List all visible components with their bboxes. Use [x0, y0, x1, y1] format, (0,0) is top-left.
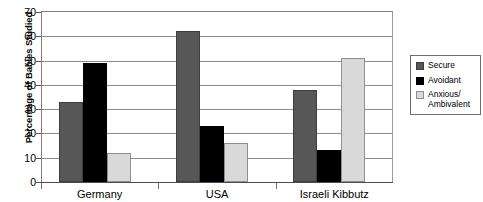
bar-israeli-kibbutz-anxious-ambivalent — [341, 58, 365, 182]
bar-usa-anxious-ambivalent — [224, 143, 248, 182]
bar-germany-avoidant — [83, 63, 107, 182]
y-tick-label: 30 — [2, 104, 36, 114]
legend-item[interactable]: Avoidant — [416, 76, 476, 86]
chart-legend: SecureAvoidantAnxious/ Ambivalent — [410, 55, 481, 115]
x-axis-line — [41, 182, 393, 183]
y-tick-label: 10 — [2, 153, 36, 163]
y-tick-label: 40 — [2, 80, 36, 90]
bars-layer — [42, 12, 392, 182]
x-axis-separator-tick — [158, 183, 159, 189]
legend-label: Secure — [428, 61, 455, 71]
bar-israeli-kibbutz-secure — [293, 90, 317, 182]
legend-item[interactable]: Secure — [416, 61, 476, 71]
y-tick-label: 20 — [2, 128, 36, 138]
bar-usa-secure — [176, 31, 200, 182]
x-axis-origin-tick — [41, 183, 42, 189]
y-tick-label: 50 — [2, 56, 36, 66]
x-axis-label: Germany — [35, 188, 165, 201]
plot-area — [41, 11, 393, 183]
legend-swatch-icon — [416, 77, 424, 85]
legend-item[interactable]: Anxious/ Ambivalent — [416, 90, 476, 109]
y-tick-label: 60 — [2, 31, 36, 41]
x-axis-label: Israeli Kibbutz — [269, 188, 399, 201]
legend-label: Avoidant — [428, 76, 461, 86]
y-tick-label: 0 — [2, 177, 36, 187]
bar-israeli-kibbutz-avoidant — [317, 150, 341, 182]
legend-swatch-icon — [416, 62, 424, 70]
legend-label: Anxious/ Ambivalent — [428, 90, 470, 109]
bar-germany-secure — [59, 102, 83, 182]
bar-usa-avoidant — [200, 126, 224, 182]
x-axis-label: USA — [152, 188, 282, 201]
bar-germany-anxious-ambivalent — [107, 153, 131, 182]
legend-swatch-icon — [416, 91, 424, 99]
x-axis-separator-tick — [276, 183, 277, 189]
y-tick-label: 70 — [2, 7, 36, 17]
bar-chart-figure: Percentage of Babies Studied 01020304050… — [0, 0, 483, 202]
